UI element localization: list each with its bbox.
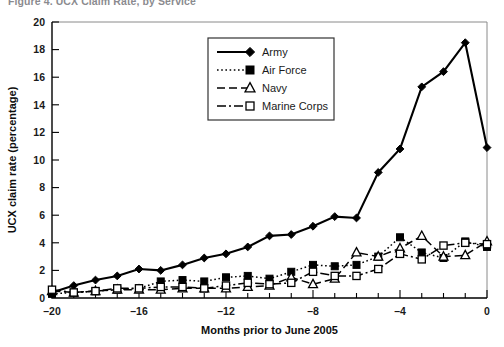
marker-open-square [309,268,316,275]
marker-open-square [48,286,55,293]
marker-filled-diamond [287,231,295,239]
marker-filled-diamond [113,272,121,280]
y-tick-label: 4 [39,237,45,249]
y-tick-label: 16 [33,71,45,83]
marker-filled-square [418,249,425,256]
chart-legend: ArmyAir ForceNavyMarine Corps [208,38,334,120]
marker-open-square [179,283,186,290]
legend-label-marine-corps: Marine Corps [262,100,329,112]
legend-label-navy: Navy [262,82,288,94]
marker-filled-diamond [266,232,274,240]
marker-filled-square [397,234,404,241]
marker-filled-diamond [353,214,361,222]
marker-open-square [222,282,229,289]
figure-container: Figure 4. UCX Claim Rate, by Service –20… [0,0,504,347]
y-tick-label: 6 [39,209,45,221]
y-tick-label: 18 [33,43,45,55]
y-tick-label: 0 [39,292,45,304]
y-tick-label: 20 [33,16,45,28]
marker-open-square [331,272,338,279]
marker-filled-diamond [244,243,252,251]
y-axis-title: UCX claim rate (percentage) [6,86,18,233]
marker-open-square [483,241,490,248]
marker-open-triangle [352,248,361,256]
marker-open-square [201,285,208,292]
marker-open-square [462,239,469,246]
x-tick-label: –16 [130,305,148,317]
figure-caption: Figure 4. UCX Claim Rate, by Service [8,0,196,7]
marker-filled-diamond [135,265,143,273]
marker-open-square [440,242,447,249]
ucx-claim-rate-line-chart: –20–16–12–8–40 02468101214161820 ArmyAir… [0,0,504,347]
marker-filled-square [353,261,360,268]
marker-open-square [266,281,273,288]
marker-open-square [114,285,121,292]
x-axis-title: Months prior to June 2005 [201,324,338,336]
marker-filled-square [244,272,251,279]
marker-filled-diamond [157,266,165,274]
marker-open-square [375,265,382,272]
marker-filled-diamond [331,213,339,221]
marker-filled-diamond [179,261,187,269]
marker-open-square [157,283,164,290]
marker-filled-square [223,274,230,281]
x-tick-label: –12 [217,305,235,317]
legend-label-air-force: Air Force [262,64,307,76]
marker-filled-diamond [92,276,100,284]
x-tick-label: 0 [484,305,490,317]
x-tick-label: –4 [394,305,406,317]
marker-filled-square [331,263,338,270]
marker-open-triangle [417,231,426,239]
x-tick-label: –8 [307,305,319,317]
marker-open-square [288,279,295,286]
y-tick-label: 10 [33,154,45,166]
y-tick-label: 2 [39,264,45,276]
x-tick-label: –20 [43,305,61,317]
y-axis-ticks: 02468101214161820 [33,16,59,304]
marker-filled-diamond [309,222,317,230]
marker-open-square [246,102,254,110]
marker-open-square [396,250,403,257]
marker-open-square [92,288,99,295]
marker-filled-square [246,66,254,74]
marker-filled-square [310,261,317,268]
marker-filled-diamond [222,250,230,258]
marker-filled-diamond [200,254,208,262]
y-tick-label: 8 [39,181,45,193]
marker-open-square [353,272,360,279]
marker-filled-diamond [483,144,491,152]
x-axis-ticks: –20–16–12–8–40 [43,290,490,317]
legend-label-army: Army [262,46,288,58]
marker-open-square [70,289,77,296]
marker-open-square [135,285,142,292]
marker-open-square [244,279,251,286]
marker-open-triangle [461,250,470,258]
y-tick-label: 12 [33,126,45,138]
marker-open-square [418,256,425,263]
y-tick-label: 14 [33,99,45,111]
